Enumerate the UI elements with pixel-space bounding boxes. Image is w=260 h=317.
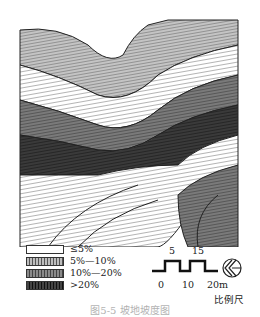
legend-swatch-mid: [26, 257, 64, 266]
legend-item: >20%: [26, 279, 122, 291]
legend-swatch-low: [26, 245, 64, 254]
scale-tick: 0: [158, 279, 164, 290]
figure-caption: 图5-5 坡地坡度图: [0, 302, 260, 317]
legend-item: ≤5%: [26, 243, 122, 255]
legend-label: 5%—10%: [70, 255, 116, 267]
legend: ≤5% 5%—10% 10%—20% >20%: [26, 243, 122, 291]
legend-swatch-high: [26, 269, 64, 278]
legend-item: 5%—10%: [26, 255, 122, 267]
scale-tick: 15: [192, 245, 204, 256]
scale-tick: 10: [182, 279, 194, 290]
north-arrow-icon: [220, 257, 244, 279]
slope-map: [18, 15, 242, 247]
scale-bar: 5 15 0 10 20m 比例尺: [150, 245, 250, 305]
legend-label: ≤5%: [70, 243, 93, 255]
slope-contour-map: [18, 15, 242, 247]
legend-label: >20%: [70, 279, 99, 291]
legend-item: 10%—20%: [26, 267, 122, 279]
legend-swatch-steep: [26, 281, 64, 290]
legend-label: 10%—20%: [70, 267, 122, 279]
scale-tick: 5: [169, 245, 175, 256]
scale-tick: 20m: [207, 279, 228, 290]
